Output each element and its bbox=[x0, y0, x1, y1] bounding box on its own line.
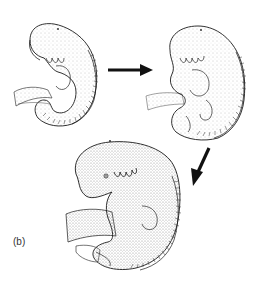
arrow-right-icon bbox=[108, 64, 153, 76]
arrow-down-left-icon bbox=[191, 148, 209, 186]
embryo-stage-1 bbox=[14, 24, 98, 126]
panel-label: (b) bbox=[13, 236, 25, 247]
embryo-stage-2 bbox=[146, 26, 246, 140]
embryo-stage-3 bbox=[66, 140, 181, 270]
embryo-development-diagram bbox=[0, 0, 260, 287]
